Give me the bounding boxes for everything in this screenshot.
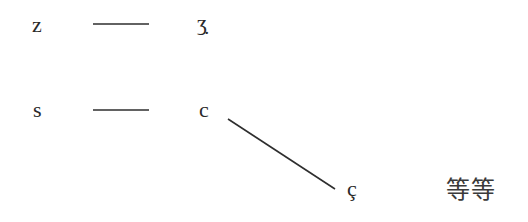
node-etc-label: 等等 — [446, 178, 496, 202]
node-s: s — [33, 99, 42, 121]
edge-c-to-c-cedilla — [228, 119, 335, 189]
node-z: z — [32, 14, 42, 36]
node-c-cedilla: ç — [347, 178, 357, 200]
node-c: c — [199, 99, 209, 121]
node-ezh-dot: ʒ̣ — [197, 12, 207, 34]
